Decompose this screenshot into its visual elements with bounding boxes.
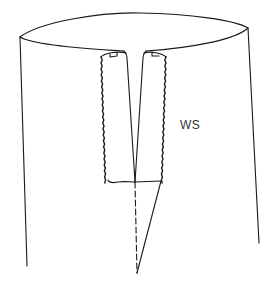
right-seam-allowance-stitching — [161, 57, 166, 183]
tube-top-ellipse-back — [20, 13, 248, 37]
tube-top-ellipse-front-left — [20, 37, 124, 51]
left-seam-allowance-stitching — [101, 57, 106, 183]
left-side-edge — [20, 37, 27, 266]
tube-slit-diagram — [0, 0, 269, 297]
left-allowance-notch — [110, 53, 117, 57]
slit-right-edge — [135, 51, 146, 182]
slit-left-edge — [124, 51, 135, 182]
wrong-side-label: WS — [180, 118, 200, 132]
tube-top-ellipse-front-right — [146, 28, 248, 51]
right-side-edge — [248, 28, 259, 243]
dart-diagonal-line — [137, 181, 161, 273]
center-fold-dashed-line — [135, 182, 137, 273]
diagram-canvas: WS — [0, 0, 269, 297]
